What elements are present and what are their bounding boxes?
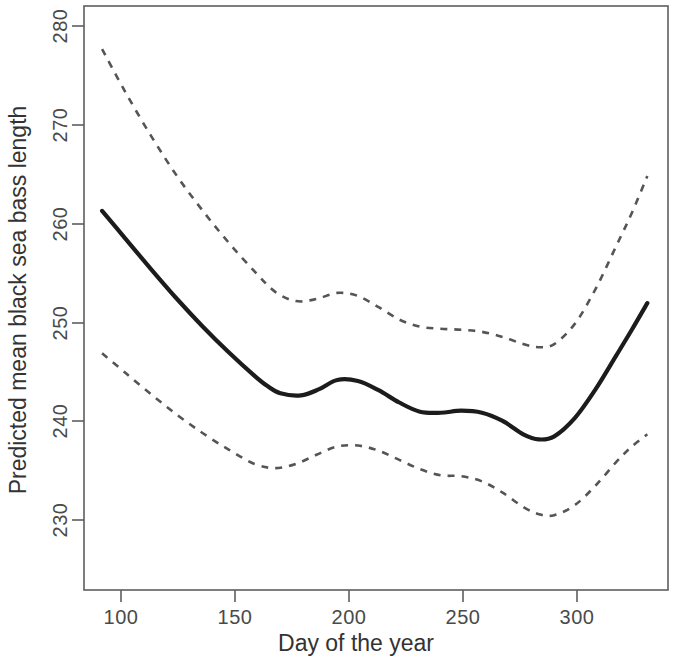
y-axis-title: Predicted mean black sea bass length [5, 106, 31, 495]
data-series-group [102, 49, 647, 516]
x-axis-tick-labels: 100 150 200 250 300 [104, 606, 595, 628]
y-tick-label-270: 270 [49, 108, 71, 143]
predicted-mean-line [102, 211, 647, 440]
x-tick-label-250: 250 [446, 606, 481, 628]
x-axis-title: Day of the year [278, 630, 434, 656]
y-tick-label-230: 230 [49, 503, 71, 538]
x-tick-label-300: 300 [560, 606, 595, 628]
x-tick-label-100: 100 [104, 606, 139, 628]
x-tick-label-150: 150 [218, 606, 253, 628]
y-axis-tick-labels: 280 270 260 250 240 230 [49, 9, 71, 538]
y-tick-label-240: 240 [49, 404, 71, 439]
y-tick-label-280: 280 [49, 9, 71, 44]
upper-confidence-band-line [102, 49, 647, 347]
chart-figure: 280 270 260 250 240 230 100 150 200 250 … [0, 0, 674, 657]
plot-frame-box [84, 6, 668, 590]
lower-confidence-band-line [102, 353, 647, 516]
y-tick-label-260: 260 [49, 207, 71, 242]
x-tick-label-200: 200 [332, 606, 367, 628]
x-axis-ticks [121, 590, 577, 602]
line-chart-canvas: 280 270 260 250 240 230 100 150 200 250 … [0, 0, 674, 657]
y-tick-label-250: 250 [49, 306, 71, 341]
y-axis-ticks [72, 26, 84, 520]
